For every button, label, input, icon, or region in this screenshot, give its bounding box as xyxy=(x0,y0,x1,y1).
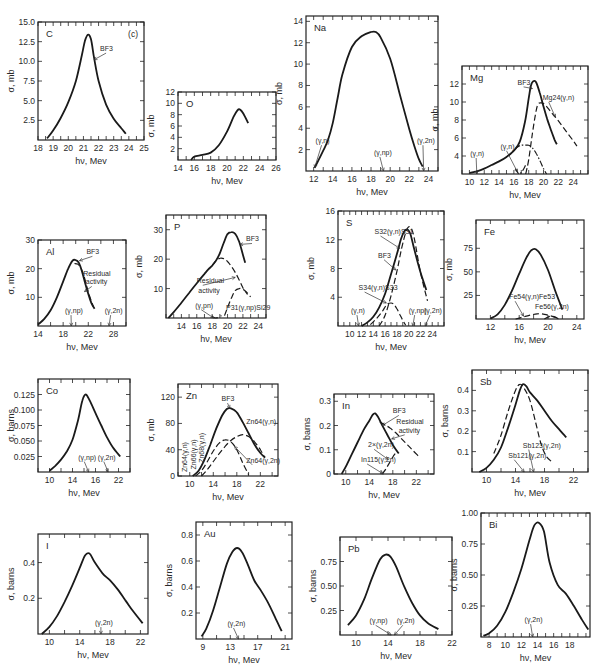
y-tick-label: 5.0 xyxy=(23,96,35,106)
x-tick-label: 18 xyxy=(565,640,575,650)
element-label: P xyxy=(174,221,180,232)
y-tick-label: 0.4 xyxy=(181,582,193,592)
y-axis-label: σ, barns xyxy=(6,567,16,601)
y-tick-label: 0.25 xyxy=(461,601,478,611)
y-tick-label: 8 xyxy=(298,80,303,90)
x-axis-label: hν, Mev xyxy=(75,156,107,166)
element-label: Mg xyxy=(470,72,483,83)
x-tick-label: 16 xyxy=(509,177,519,187)
chart-panel-i: 101418220.20.4hν, Mevσ, barnsI(γ,2n) xyxy=(4,528,158,664)
chart-panel-s: 1012141618202224481216hν, Mevσ, mbSS32(γ… xyxy=(304,205,454,356)
x-tick-label: 12 xyxy=(357,329,367,339)
x-axis-label: hν, Mev xyxy=(200,334,232,344)
annotation-label: (γ,n) xyxy=(351,307,365,315)
y-tick-label: 14 xyxy=(294,16,304,26)
x-tick-label: 24 xyxy=(572,322,582,332)
x-tick-label: 12 xyxy=(309,174,319,184)
y-tick-label: 30 xyxy=(154,225,164,235)
y-axis-label: σ, barns xyxy=(308,569,318,603)
annotation-label: (γ,np) xyxy=(370,617,388,625)
y-tick-label: 2.5 xyxy=(23,115,35,125)
y-tick-label: 0.100 xyxy=(14,405,36,415)
annotation-label: Zn66(γ,n) xyxy=(190,439,198,469)
annotation-label: (γ,2n) xyxy=(228,620,246,628)
x-tick-label: 18 xyxy=(207,321,217,331)
element-label: S xyxy=(346,217,352,228)
y-axis-label: σ, mb xyxy=(146,418,156,441)
y-tick-label: 0.75 xyxy=(320,557,337,567)
x-tick-label: 10 xyxy=(500,640,510,650)
series-sb-2n-dashed xyxy=(494,384,552,462)
annotation-label: Zn64(γ,n) xyxy=(181,442,189,472)
x-tick-label: 20 xyxy=(404,329,414,339)
y-tick-label: 25 xyxy=(464,290,474,300)
y-tick-label: 0.1 xyxy=(319,445,331,455)
x-tick-label: 21 xyxy=(79,143,89,153)
x-tick-label: 18 xyxy=(33,143,43,153)
x-tick-label: 28 xyxy=(109,329,119,339)
x-tick-label: 18 xyxy=(232,479,242,489)
y-axis-label: σ, mb xyxy=(134,255,144,278)
chart-svg-au: 91317210.20.40.60.8hν, Mevσ, barnsAu(γ,2… xyxy=(162,516,302,666)
x-tick-label: 18 xyxy=(540,475,550,485)
y-axis-label: σ, barns xyxy=(6,408,16,442)
x-axis-label: hν, Mev xyxy=(77,650,109,660)
annotation-arrow-icon xyxy=(201,310,213,318)
chart-panel-in: 1014182200.10.20.3hν, Mevσ, barnsInBF3Re… xyxy=(300,388,444,504)
x-tick-label: 22 xyxy=(114,475,124,485)
y-tick-label: 4 xyxy=(170,132,175,142)
annotation-arrow-icon xyxy=(376,625,392,635)
y-tick-label: 0.125 xyxy=(14,390,36,400)
annotation-label: (γ,np) xyxy=(78,454,96,462)
y-tick-label: 40 xyxy=(166,445,176,455)
y-tick-label: 0.050 xyxy=(14,436,36,446)
x-tick-label: 16 xyxy=(91,475,101,485)
series-fe54-n-fe53 xyxy=(516,314,559,319)
element-label: O xyxy=(186,98,193,109)
y-tick-label: 2 xyxy=(298,145,303,155)
chart-panel-au: 91317210.20.40.60.8hν, Mevσ, barnsAu(γ,2… xyxy=(162,516,302,666)
x-tick-label: 24 xyxy=(255,163,265,173)
x-tick-label: 14 xyxy=(369,329,379,339)
x-tick-label: 20 xyxy=(539,177,549,187)
chart-svg-al: 14182228102030hν, Mevσ, mbAlBF3Residuala… xyxy=(4,234,136,356)
annotation-label: Fe56(γ,2n) xyxy=(535,303,569,311)
x-tick-label: 20 xyxy=(543,322,553,332)
x-tick-label: 17 xyxy=(253,642,263,652)
chart-panel-mg: 10121416182022244681012hν, Mevσ, mbMgBF3… xyxy=(428,60,598,204)
annotation-label: Zn64(γ,n) xyxy=(246,418,276,426)
annotation-label: BF3 xyxy=(378,252,391,259)
annotation-label: activity xyxy=(198,287,220,295)
element-label: Al xyxy=(46,246,54,257)
annotation-label: Residual xyxy=(396,418,424,425)
y-tick-label: 0.025 xyxy=(14,452,36,462)
chart-svg-na: 121416182022242468101214hν, Mevσ, mbNa(γ… xyxy=(272,10,448,201)
x-tick-label: 14 xyxy=(511,475,521,485)
annotation-arrow-icon xyxy=(515,301,523,316)
y-axis-label: σ, barns xyxy=(302,417,312,451)
y-tick-label: 12.5 xyxy=(18,37,35,47)
x-tick-label: 13 xyxy=(226,642,236,652)
annotation-label: (γ,n) xyxy=(501,143,515,151)
x-tick-label: 18 xyxy=(392,329,402,339)
chart-panel-zn: 1014182204080120hν, Mevσ, mbZnBF3Zn64(γ,… xyxy=(144,378,288,506)
chart-svg-o: 1416182022242624681012hν, Mevσ, mbO xyxy=(144,86,286,190)
x-tick-label: 12 xyxy=(517,640,527,650)
y-tick-label: 15.0 xyxy=(18,17,35,27)
x-tick-label: 14 xyxy=(328,174,338,184)
x-tick-label: 18 xyxy=(105,637,115,647)
element-label: C xyxy=(46,28,53,39)
chart-svg-in: 1014182200.10.20.3hν, Mevσ, barnsInBF3Re… xyxy=(300,388,444,504)
annotation-label: Residual xyxy=(83,270,111,277)
x-tick-label: 14 xyxy=(68,475,78,485)
y-tick-label: 0.75 xyxy=(461,539,478,549)
x-tick-label: 14 xyxy=(209,479,219,489)
y-tick-label: 0 xyxy=(326,469,331,479)
y-tick-label: 75 xyxy=(464,243,474,253)
x-tick-label: 12 xyxy=(486,322,496,332)
element-label: Bi xyxy=(489,519,497,530)
y-tick-label: 0.4 xyxy=(23,558,35,568)
x-tick-label: 22 xyxy=(405,174,415,184)
x-tick-label: 10 xyxy=(185,479,195,489)
chart-svg-i: 101418220.20.4hν, Mevσ, barnsI(γ,2n) xyxy=(4,528,158,664)
